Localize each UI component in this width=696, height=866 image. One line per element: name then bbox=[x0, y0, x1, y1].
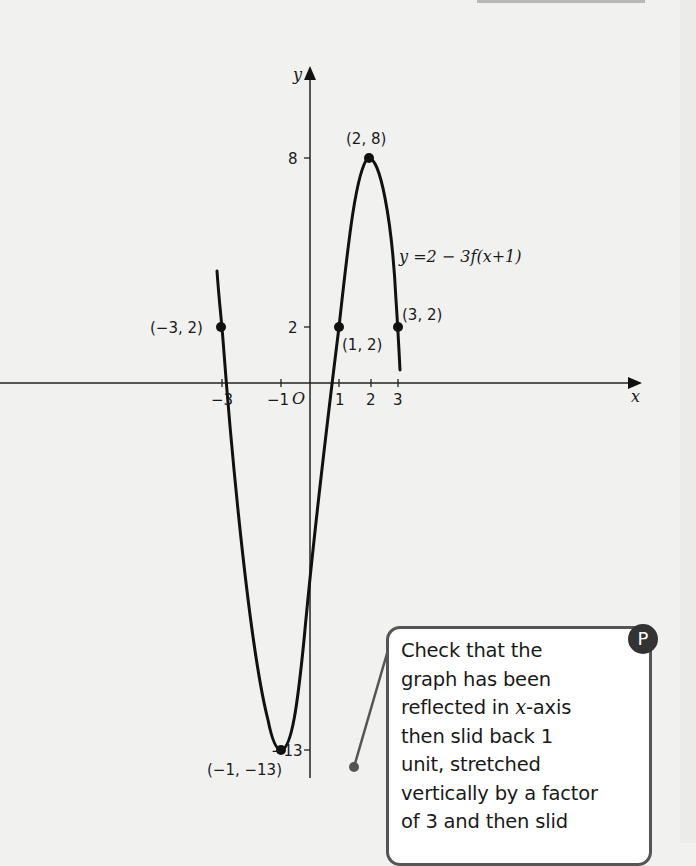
tick-label-x-m3: −3 bbox=[211, 391, 233, 409]
y-axis-arrow-icon bbox=[304, 66, 316, 80]
origin-label: O bbox=[292, 389, 305, 408]
y-axis-label: y bbox=[292, 65, 303, 84]
callout-pointer-dot bbox=[349, 762, 359, 772]
tick-label-y-m13: −13 bbox=[271, 742, 303, 760]
tick-label-x-m1: −1 bbox=[267, 391, 289, 409]
callout-line-2: graph has been bbox=[401, 666, 639, 695]
curve-label: y =2 − 3f(x+1) bbox=[398, 247, 521, 266]
tick-label-y-2: 2 bbox=[288, 319, 298, 337]
callout-line-6: vertically by a factor bbox=[401, 780, 639, 809]
y-ticks bbox=[304, 158, 310, 750]
point-1-2 bbox=[334, 322, 344, 332]
callout-text: Check that the graph has been reflected … bbox=[401, 637, 639, 837]
point-label-m3-2: (−3, 2) bbox=[150, 319, 203, 337]
callout-line-4: then slid back 1 bbox=[401, 723, 639, 752]
point-2-8 bbox=[364, 153, 374, 163]
function-curve bbox=[217, 158, 400, 750]
callout-line-1: Check that the bbox=[401, 637, 639, 666]
callout-line-3: reflected in x-axis bbox=[401, 694, 639, 723]
tip-callout: Check that the graph has been reflected … bbox=[386, 626, 652, 866]
callout-line-7: of 3 and then slid bbox=[401, 808, 639, 837]
callout-pointer bbox=[354, 650, 388, 767]
callout-line-5: unit, stretched bbox=[401, 751, 639, 780]
tick-label-y-8: 8 bbox=[288, 150, 298, 168]
point-label-1-2: (1, 2) bbox=[342, 336, 382, 354]
point-label-3-2: (3, 2) bbox=[402, 306, 442, 324]
x-axis-label: x bbox=[631, 387, 640, 406]
point-m3-2 bbox=[216, 322, 226, 332]
tick-label-x-1: 1 bbox=[335, 391, 345, 409]
point-label-m1-m13: (−1, −13) bbox=[207, 761, 282, 779]
p-badge-icon: P bbox=[628, 624, 658, 654]
point-label-2-8: (2, 8) bbox=[346, 130, 386, 148]
tick-label-x-3: 3 bbox=[393, 391, 403, 409]
tick-label-x-2: 2 bbox=[366, 391, 376, 409]
